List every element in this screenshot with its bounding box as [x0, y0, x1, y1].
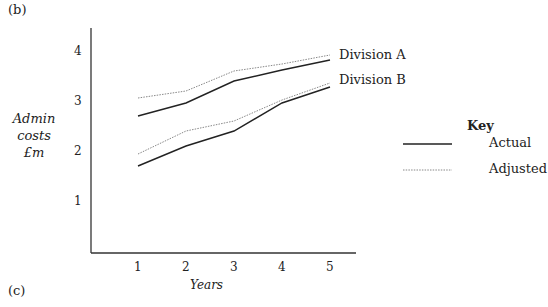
legend-actual-label: Actual — [489, 135, 531, 150]
division-a-adjusted-line — [138, 55, 330, 98]
legend-title: Key — [467, 118, 494, 133]
division-b-adjusted-line — [138, 83, 330, 154]
plot-area — [0, 0, 548, 307]
division-b-actual-line — [138, 87, 330, 166]
legend-adjusted-label: Adjusted — [489, 161, 547, 176]
division-a-actual-line — [138, 60, 330, 116]
division-b-label: Division B — [339, 72, 406, 87]
division-a-label: Division A — [339, 47, 406, 62]
